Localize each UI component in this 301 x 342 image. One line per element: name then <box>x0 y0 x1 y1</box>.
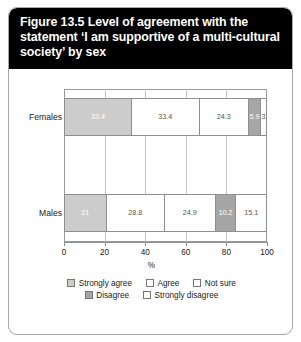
bar-segment-males-strongly-disagree: 15.1 <box>236 194 267 232</box>
legend-item-not-sure: Not sure <box>193 279 235 288</box>
legend-row-2: Disagree Strongly disagree <box>9 291 293 300</box>
legend-item-strongly-disagree: Strongly disagree <box>143 291 218 300</box>
legend-label: Disagree <box>96 291 129 300</box>
x-axis-tick-label: 100 <box>260 248 274 257</box>
bar-segment-males-disagree: 10.2 <box>216 194 237 232</box>
bar-segment-females-strongly-agree: 33.4 <box>64 98 132 136</box>
page-title: Figure 13.5 Level of agreement with the … <box>20 15 281 61</box>
x-axis-tick <box>267 242 268 246</box>
legend-label: Agree <box>157 279 179 288</box>
legend-row-1: Strongly agree Agree Not sure <box>9 279 293 288</box>
bar-segment-females-not-sure: 24.3 <box>200 98 249 136</box>
x-axis-line <box>64 242 267 243</box>
bar-value-label: 3 <box>261 113 265 120</box>
x-axis-tick <box>105 242 106 246</box>
x-axis-tick <box>64 242 65 246</box>
bar-value-label: 15.1 <box>244 209 258 216</box>
legend-item-strongly-agree: Strongly agree <box>67 279 132 288</box>
x-axis-tick <box>186 242 187 246</box>
bar-value-label: 10.2 <box>218 209 232 216</box>
plot-area: Females Males 33.4 33.4 24.3 5.9 3 21 <box>9 69 293 335</box>
x-axis-tick <box>145 242 146 246</box>
bar-row-males: 21 28.8 24.9 10.2 15.1 <box>64 194 267 232</box>
legend-label: Strongly disagree <box>155 291 219 300</box>
x-axis-tick-label: 0 <box>62 248 67 257</box>
x-axis-title: % <box>9 261 293 270</box>
legend-swatch-icon <box>67 279 75 287</box>
bar-segment-females-agree: 33.4 <box>132 98 200 136</box>
x-axis-tick-label: 20 <box>100 248 109 257</box>
legend-swatch-icon <box>85 291 93 299</box>
x-axis-tick-label: 80 <box>222 248 231 257</box>
bar-segment-males-not-sure: 24.9 <box>165 194 216 232</box>
bar-value-label: 28.8 <box>128 209 142 216</box>
legend-swatch-icon <box>143 291 151 299</box>
bar-segment-females-strongly-disagree: 3 <box>261 98 267 136</box>
figure-title-bar: Figure 13.5 Level of agreement with the … <box>9 8 292 69</box>
legend-label: Not sure <box>205 279 236 288</box>
bar-segment-males-agree: 28.8 <box>107 194 165 232</box>
bar-value-label: 33.4 <box>91 113 105 120</box>
bar-value-label: 21 <box>81 209 89 216</box>
bar-value-label: 24.3 <box>217 113 231 120</box>
x-axis-tick <box>226 242 227 246</box>
bar-value-label: 24.9 <box>183 209 197 216</box>
legend-swatch-icon <box>193 279 201 287</box>
legend-swatch-icon <box>146 279 154 287</box>
chart-legend: Strongly agree Agree Not sure Disagree <box>9 279 293 303</box>
bar-row-females: 33.4 33.4 24.3 5.9 3 <box>64 98 267 136</box>
bar-value-label: 5.9 <box>249 113 259 120</box>
legend-item-agree: Agree <box>146 279 179 288</box>
x-axis-tick-label: 60 <box>181 248 190 257</box>
bar-value-label: 33.4 <box>158 113 172 120</box>
bar-segment-females-disagree: 5.9 <box>249 98 261 136</box>
legend-label: Strongly agree <box>79 279 132 288</box>
axis-category-label-males: Males <box>10 208 62 218</box>
x-axis-tick-label: 40 <box>141 248 150 257</box>
axis-category-label-females: Females <box>10 112 62 122</box>
legend-item-disagree: Disagree <box>85 291 129 300</box>
figure-panel: Figure 13.5 Level of agreement with the … <box>8 7 293 335</box>
bar-segment-males-strongly-agree: 21 <box>64 194 107 232</box>
